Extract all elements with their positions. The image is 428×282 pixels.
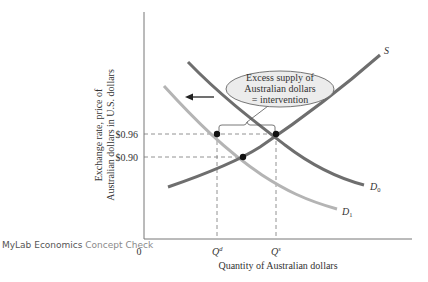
callout-line-3: = intervention [252, 94, 308, 105]
point-qs-096 [273, 131, 279, 137]
y-axis-title-line-2: Australian dollars in U.S. dollars [105, 69, 116, 201]
y-axis-title: Exchange rate, price of Australian dolla… [93, 69, 116, 201]
concept-check-link[interactable]: Concept Check [85, 240, 153, 250]
d1-label: D1 [341, 206, 352, 218]
supply-label: S [384, 45, 389, 56]
x-axis-title: Quantity of Australian dollars [218, 260, 337, 271]
footer: MyLab Economics Concept Check [2, 240, 153, 250]
left-arrow-icon [185, 94, 214, 101]
y-axis-title-line-1: Exchange rate, price of [93, 88, 104, 181]
y-tick-096: $0.96 [116, 129, 139, 140]
y-tick-090: $0.90 [116, 152, 139, 163]
x-tick-qs: Qs [271, 245, 281, 257]
callout-line-2: Australian dollars [244, 83, 315, 94]
callout-line-1: Excess supply of [246, 72, 314, 83]
point-equilibrium-090 [240, 154, 246, 160]
x-tick-qd: Qd [212, 245, 223, 257]
footer-brand: MyLab Economics [2, 240, 82, 250]
point-qd-096 [214, 131, 220, 137]
d0-label: D0 [369, 181, 380, 193]
